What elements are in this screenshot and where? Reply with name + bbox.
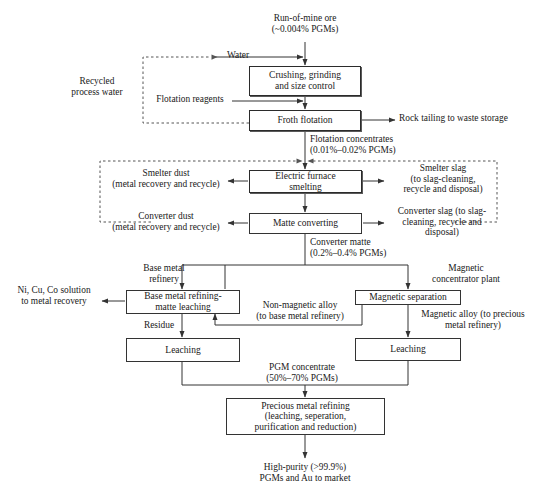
node-precious-metal-refining-label: Precious metal refining (leaching, seper…	[252, 401, 360, 433]
node-base-metal-refining-label: Base metal refining- matte leaching	[141, 291, 225, 312]
label-non-magnetic-alloy: Non-magnetic alloy (to base metal refine…	[244, 300, 356, 321]
node-magnetic-separation-label: Magnetic separation	[366, 292, 449, 303]
label-recycled-process-water: Recycled process water	[56, 76, 138, 97]
label-smelter-slag: Smelter slag (to slag-cleaning, recycle …	[388, 163, 498, 195]
node-electric-furnace-smelting-label: Electric furnace smelting	[272, 171, 338, 192]
label-converter-slag: Converter slag (to slag- cleaning, recyc…	[386, 206, 498, 238]
label-flotation-reagents: Flotation reagents	[148, 94, 232, 105]
node-froth-flotation[interactable]: Froth flotation	[249, 110, 361, 131]
node-crushing-grinding-label: Crushing, grinding and size control	[266, 70, 344, 91]
label-converter-dust: Converter dust (metal recovery and recyc…	[104, 211, 228, 232]
node-electric-furnace-smelting[interactable]: Electric furnace smelting	[249, 170, 362, 193]
label-residue: Residue	[138, 320, 180, 331]
dashed-smelter-arrowhead-right	[308, 158, 314, 163]
label-ni-cu-co-solution: Ni, Cu, Co solution to metal recovery	[6, 285, 102, 306]
label-run-of-mine-ore: Run-of-mine ore (~0.004% PGMs)	[248, 13, 362, 34]
node-leaching-right-label: Leaching	[387, 344, 428, 355]
node-froth-flotation-label: Froth flotation	[274, 115, 335, 126]
node-magnetic-separation[interactable]: Magnetic separation	[355, 290, 461, 305]
node-matte-converting[interactable]: Matte converting	[249, 213, 362, 234]
node-matte-converting-label: Matte converting	[270, 218, 341, 229]
process-flow-diagram: Run-of-mine ore (~0.004% PGMs) Water Rec…	[0, 0, 536, 497]
label-converter-matte: Converter matte (0.2%–0.4% PGMs)	[310, 237, 414, 258]
node-base-metal-refining[interactable]: Base metal refining- matte leaching	[126, 290, 240, 314]
node-precious-metal-refining[interactable]: Precious metal refining (leaching, seper…	[226, 398, 385, 435]
node-crushing-grinding[interactable]: Crushing, grinding and size control	[249, 66, 361, 96]
label-base-metal-refinery: Base metal refinery	[131, 263, 197, 284]
node-leaching-left[interactable]: Leaching	[126, 338, 240, 362]
dashed-water-arrowhead	[212, 55, 218, 60]
dashed-smelter-arrowhead-left	[297, 158, 303, 163]
label-magnetic-alloy: Magnetic alloy (to precious metal refine…	[412, 309, 534, 330]
dashed-recycled-water-loop	[143, 57, 249, 123]
node-leaching-right[interactable]: Leaching	[355, 338, 461, 361]
label-flotation-concentrates: Flotation concentrates (0.01%–0.02% PGMs…	[310, 134, 426, 155]
label-water: Water	[218, 50, 258, 61]
node-leaching-left-label: Leaching	[162, 345, 203, 356]
label-pgm-concentrate: PGM concentrate (50%–70% PGMs)	[244, 362, 360, 383]
label-high-purity-output: High-purity (>99.9%) PGMs and Au to mark…	[235, 462, 375, 483]
label-magnetic-concentrator-plant: Magnetic concentrator plant	[414, 263, 518, 284]
label-rock-tailing: Rock tailing to waste storage	[399, 113, 535, 124]
label-smelter-dust: Smelter dust (metal recovery and recycle…	[104, 168, 228, 189]
